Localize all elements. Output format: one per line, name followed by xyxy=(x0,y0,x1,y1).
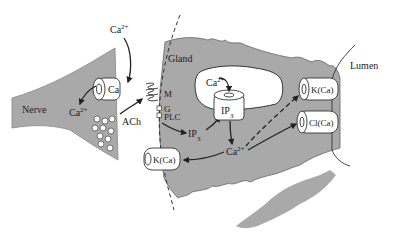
plc-icon xyxy=(157,113,162,118)
cl-ca-apical-label: Cl(Ca) xyxy=(309,118,334,128)
k-ca-channel-apical: K(Ca) xyxy=(299,78,338,100)
gland-label: Gland xyxy=(168,53,192,64)
muscarinic-receptor xyxy=(146,83,158,101)
lumen-label: Lumen xyxy=(350,60,378,71)
k-ca-apical-label: K(Ca) xyxy=(311,85,334,95)
receptor-m-label: M xyxy=(164,89,172,99)
ca-channel-nerve: Ca xyxy=(93,78,120,100)
plc-label: PLC xyxy=(164,112,181,122)
ip3-receptor-channel: IP3 xyxy=(214,90,244,120)
k-ca-basolateral-label: K(Ca) xyxy=(153,155,176,165)
cl-ca-channel-apical: Cl(Ca) xyxy=(297,111,338,133)
g-protein-icon xyxy=(157,106,162,111)
nerve-gland-signaling-diagram: Ca Ca2+ Ca2+ Nerve ACh M G PLC IP3 IP3 C… xyxy=(0,0,394,233)
ach-release-arrow xyxy=(120,99,142,114)
k-ca-channel-basolateral: K(Ca) xyxy=(144,148,180,170)
ca-extracellular-label: Ca2+ xyxy=(110,23,129,35)
ca-channel-label: Ca xyxy=(108,84,120,95)
nerve-label: Nerve xyxy=(22,104,47,115)
ca-influx-arrow xyxy=(124,38,131,82)
ach-label: ACh xyxy=(122,116,141,127)
